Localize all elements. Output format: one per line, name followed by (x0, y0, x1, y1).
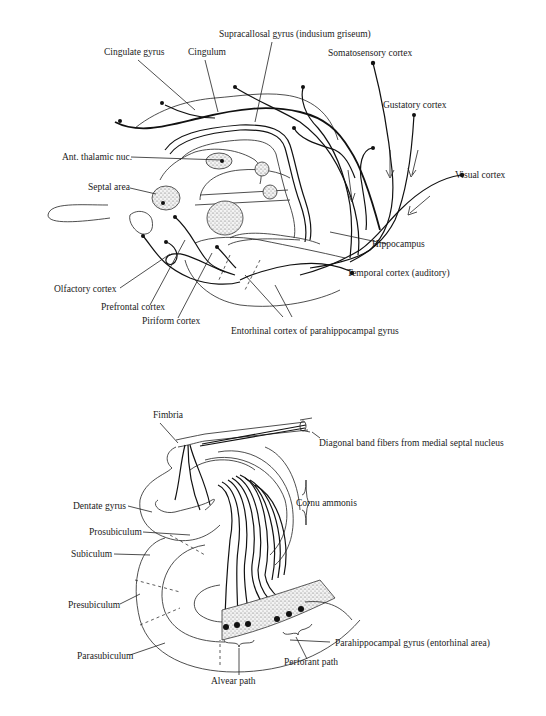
label-subiculum: Subiculum (71, 549, 113, 559)
dot-marker (371, 61, 375, 65)
cingulate-gyrus-contour (135, 94, 338, 140)
label-parasubiculum: Parasubiculum (77, 651, 134, 661)
label-piriform-cortex: Piriform cortex (142, 316, 201, 326)
dot-marker (160, 101, 164, 105)
label-temporal-cortex: Temporal cortex (auditory) (347, 268, 450, 279)
olfactory-fiber (143, 236, 240, 284)
prosubiculum-arc (194, 585, 225, 622)
perforant-brace (283, 624, 312, 635)
leader-line (120, 254, 170, 288)
label-cingulum: Cingulum (188, 47, 227, 57)
olfactory-tract-outline (48, 205, 110, 222)
label-gustatory-cortex: Gustatory cortex (383, 100, 447, 110)
fiber (360, 148, 372, 230)
label-olfactory-cortex: Olfactory cortex (54, 284, 117, 294)
dot-marker (215, 245, 219, 249)
label-presubiculum: Presubiculum (68, 600, 121, 610)
label-dentate-gyrus: Dentate gyrus (73, 501, 126, 511)
leader-line (205, 60, 218, 112)
dot-marker (371, 146, 375, 150)
fornix-line (195, 200, 290, 205)
visual-fiber (300, 175, 461, 275)
label-prefrontal-cortex: Prefrontal cortex (101, 302, 165, 312)
leader-line (255, 42, 272, 122)
alvear-brace (224, 640, 254, 647)
label-visual-cortex: Visual cortex (455, 170, 506, 180)
cingulum-tract (115, 108, 380, 230)
label-entorhinal-cortex: Entorhinal cortex of parahippocampal gyr… (231, 326, 399, 336)
entorhinal-stippled-band (222, 580, 335, 640)
mammillary-node-lower (263, 185, 277, 199)
leader-line (160, 423, 178, 443)
label-somatosensory-cortex: Somatosensory cortex (328, 48, 412, 58)
subiculum-arc (162, 545, 225, 642)
dashed-boundaries (135, 535, 220, 665)
dot-marker (173, 215, 177, 219)
diagonal-band-fiber (200, 428, 305, 446)
label-diagonal-band: Diagonal band fibers from medial septal … (319, 438, 504, 448)
mammillary-node-upper (255, 162, 269, 176)
dot-marker (118, 119, 122, 123)
figure-canvas: Supracallosal gyrus (indusium griseum) C… (0, 0, 546, 716)
septal-area-nucleus (152, 186, 180, 210)
label-alvear-path: Alvear path (211, 676, 256, 686)
dot-marker (233, 85, 237, 89)
label-supracallosal-gyrus: Supracallosal gyrus (indusium griseum) (219, 29, 371, 40)
leader-line (138, 60, 195, 110)
label-cornu-ammonis: Cornu ammonis (296, 498, 357, 508)
dentate-gyrus-inner (155, 499, 214, 512)
leader-line (290, 640, 330, 642)
leader-line (143, 532, 190, 535)
leader-line (178, 253, 212, 318)
top-panel-diagram: Supracallosal gyrus (indusium griseum) C… (48, 29, 506, 336)
leader-line (130, 188, 156, 194)
label-cingulate-gyrus: Cingulate gyrus (104, 47, 165, 57)
label-hippocampus: Hippocampus (372, 239, 425, 249)
leader-line (245, 275, 292, 317)
dot-marker (141, 234, 145, 238)
piriform-fiber (218, 248, 236, 268)
dentate-gyrus-outer (140, 447, 220, 541)
label-ant-thalamic-nuc: Ant. thalamic nuc. (62, 152, 132, 162)
dentate-outline (228, 239, 300, 245)
label-perforant-path: Perforant path (284, 657, 338, 667)
anterior-thalamic-nucleus (206, 153, 232, 169)
label-parahippocampal-gyrus: Parahippocampal gyrus (entorhinal area) (335, 638, 490, 649)
label-fimbria: Fimbria (153, 410, 184, 420)
temporal-fiber (240, 263, 350, 280)
dot-marker (412, 113, 416, 117)
label-prosubiculum: Prosubiculum (89, 527, 142, 537)
dot-marker (164, 240, 168, 244)
amygdala-nucleus (207, 201, 243, 235)
dot-marker (292, 126, 296, 130)
cornu-ammonis-layer (265, 447, 300, 510)
dot-marker (301, 85, 305, 89)
fiber (302, 88, 351, 258)
label-septal-area: Septal area (88, 182, 131, 192)
bottom-panel-diagram: Fimbria Diagonal band fibers from medial… (68, 410, 504, 686)
leader-line (130, 643, 165, 655)
dot-marker (161, 201, 165, 205)
olfactory-bulb-outline (130, 211, 153, 234)
